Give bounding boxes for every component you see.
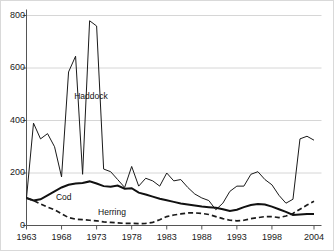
fish-landings-line-chart: 0200400600800 19631968197319781983198819… [0,0,334,251]
y-tick-label-0: 0 [1,220,25,230]
series-label-herring: Herring [98,207,126,217]
x-tick-label-1963: 1963 [10,232,44,242]
series-label-cod: Cod [56,192,72,202]
x-tick-label-1968: 1968 [45,232,79,242]
x-tick-label-2004: 2004 [297,232,331,242]
chart-plot-area [1,1,334,251]
gridlines-group [27,16,322,174]
y-tick-label-200: 200 [1,167,25,177]
x-tick-label-1993: 1993 [220,232,254,242]
y-tick-label-800: 800 [1,10,25,20]
x-tick-label-1983: 1983 [150,232,184,242]
series-line-haddock [27,21,315,210]
y-tick-label-600: 600 [1,62,25,72]
x-tick-label-1988: 1988 [185,232,219,242]
x-tick-label-1998: 1998 [255,232,289,242]
y-tick-label-400: 400 [1,115,25,125]
series-label-haddock: Haddock [74,91,108,101]
x-tick-label-1973: 1973 [80,232,114,242]
x-tick-label-1978: 1978 [115,232,149,242]
